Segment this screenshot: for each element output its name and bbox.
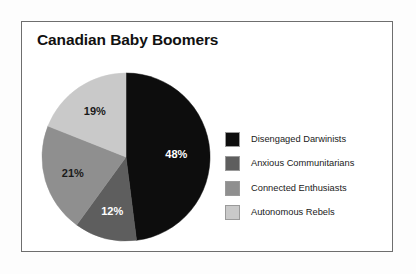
legend-swatch-icon (225, 156, 240, 171)
legend-swatch-icon (225, 205, 240, 220)
legend-item: Connected Enthusiasts (225, 176, 385, 201)
legend-item-label: Anxious Communitarians (251, 159, 354, 168)
pie-slice-label: 21% (62, 167, 84, 179)
pie-chart-svg: 48%12%21%19% (41, 72, 211, 242)
legend-item-label: Autonomous Rebels (251, 208, 335, 217)
legend-item: Autonomous Rebels (225, 201, 385, 226)
legend: Disengaged DarwinistsAnxious Communitari… (225, 127, 385, 225)
legend-swatch-icon (225, 132, 240, 147)
page-canvas: Canadian Baby Boomers 48%12%21%19% Disen… (0, 0, 416, 274)
pie-slice-label: 19% (84, 105, 106, 117)
legend-item-label: Disengaged Darwinists (251, 135, 346, 144)
pie-slice-label: 12% (101, 205, 123, 217)
pie-chart: 48%12%21%19% (41, 72, 211, 242)
legend-item-label: Connected Enthusiasts (251, 184, 347, 193)
pie-slice-label: 48% (165, 148, 187, 160)
page-title: Canadian Baby Boomers (37, 31, 218, 49)
legend-item: Disengaged Darwinists (225, 127, 385, 152)
legend-item: Anxious Communitarians (225, 152, 385, 177)
legend-swatch-icon (225, 181, 240, 196)
chart-frame: Canadian Baby Boomers 48%12%21%19% Disen… (21, 21, 393, 252)
